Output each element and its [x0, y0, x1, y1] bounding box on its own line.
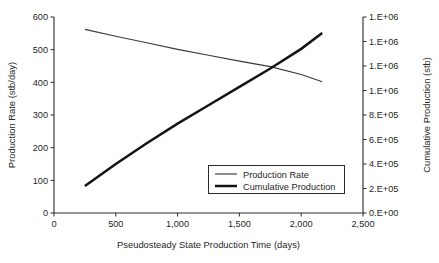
series-line-cumulative-production: [85, 33, 322, 186]
x-axis-tick-labels: 05001,0001,5002,0002,500: [51, 219, 374, 229]
y-axis-right-tick-labels: 0.E+002.E+054.E+056.E+058.E+051.E+061.E+…: [369, 12, 398, 218]
y-axis-right-tick-label: 0.E+00: [369, 208, 398, 218]
x-axis-tick-label: 1,000: [166, 219, 189, 229]
y-axis-right-tick-label: 1.E+06: [369, 12, 398, 22]
x-axis-tick-label: 0: [51, 219, 56, 229]
chart-legend: Production Rate Cumulative Production: [209, 166, 345, 194]
x-axis-tick-label: 2,500: [352, 219, 375, 229]
y-axis-right-tick-label: 1.E+06: [369, 61, 398, 71]
y-axis-left-title: Production Rate (stb/day): [6, 62, 17, 168]
y-axis-right-tick-label: 1.E+06: [369, 37, 398, 47]
y-axis-left-tick-label: 500: [33, 45, 48, 55]
y-axis-left-tick-labels: 0100200300400500600: [33, 12, 48, 218]
y-axis-left-tick-label: 100: [33, 176, 48, 186]
y-axis-right-tick-label: 8.E+05: [369, 110, 398, 120]
chart-figure: 0100200300400500600 0.E+002.E+054.E+056.…: [0, 0, 439, 263]
y-axis-right-tick-label: 2.E+05: [369, 184, 398, 194]
series-line-production-rate: [85, 29, 322, 81]
y-axis-right-title: Cumulative Production (stb): [421, 57, 432, 173]
y-axis-right-tick-label: 4.E+05: [369, 159, 398, 169]
y-axis-right-tick-label: 1.E+06: [369, 86, 398, 96]
y-axis-right-tick-label: 6.E+05: [369, 135, 398, 145]
y-axis-left-tick-label: 400: [33, 78, 48, 88]
y-axis-left-tick-label: 200: [33, 143, 48, 153]
x-axis-tick-label: 500: [108, 219, 123, 229]
y-axis-left-tick-label: 0: [43, 208, 48, 218]
legend-label-production-rate: Production Rate: [243, 170, 309, 180]
y-axis-left-tick-label: 300: [33, 110, 48, 120]
legend-label-cumulative-production: Cumulative Production: [243, 182, 335, 192]
y-axis-left-tick-label: 600: [33, 12, 48, 22]
x-axis-tick-label: 1,500: [228, 219, 251, 229]
x-axis-title: Pseudosteady State Production Time (days…: [117, 239, 300, 250]
x-axis-tick-label: 2,000: [290, 219, 313, 229]
chart-canvas: 0100200300400500600 0.E+002.E+054.E+056.…: [0, 0, 439, 263]
